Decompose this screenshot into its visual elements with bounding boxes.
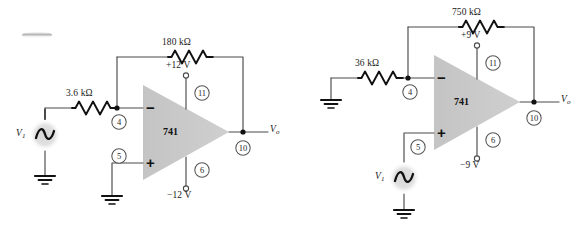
right-pin-supply-positive: 11 — [486, 56, 500, 70]
left-supply-negative-label: −12 V — [167, 190, 191, 200]
left-pin-supply-negative: 6 — [195, 163, 209, 177]
left-supply-positive-label: +12 V — [166, 60, 190, 70]
left-pin-noninverting: 5 — [112, 149, 126, 163]
right-output-label: Vo — [561, 94, 571, 106]
left-input-resistor-label: 3.6 kΩ — [66, 88, 93, 98]
right-input-resistor-label: 36 kΩ — [355, 58, 379, 68]
right-noninverting-input-sign: + — [437, 125, 446, 140]
circuit-drawing — [0, 0, 581, 229]
left-source-label: V1 — [16, 128, 26, 140]
left-pin-output: 10 — [236, 141, 250, 155]
right-supply-negative-label: −9 V — [460, 160, 480, 170]
right-source-label: V1 — [375, 171, 385, 183]
right-supply-positive-label: +9 V — [461, 30, 481, 40]
right-feedback-resistor-label: 750 kΩ — [452, 7, 481, 17]
circuit-figure: 180 kΩ 3.6 kΩ +12 V −12 V 741 − + V1 Vo … — [0, 0, 581, 229]
left-feedback-resistor-label: 180 kΩ — [162, 37, 191, 47]
right-pin-inverting: 4 — [403, 85, 417, 99]
left-inverting-input-sign: − — [146, 100, 155, 115]
right-pin-output: 10 — [527, 111, 541, 125]
right-pin-supply-negative: 6 — [486, 133, 500, 147]
left-pin-inverting: 4 — [112, 115, 126, 129]
right-inverting-input-sign: − — [437, 70, 446, 85]
left-pin-supply-positive: 11 — [195, 86, 209, 100]
left-output-label: Vo — [270, 124, 280, 136]
right-chip-label: 741 — [454, 96, 469, 107]
left-chip-label: 741 — [163, 126, 178, 137]
left-noninverting-input-sign: + — [146, 155, 155, 170]
right-pin-noninverting: 5 — [411, 140, 425, 154]
